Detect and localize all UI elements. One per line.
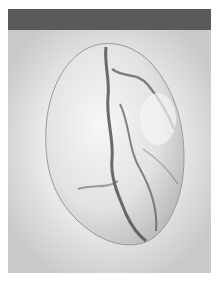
photo-frame [8,9,211,273]
stone-image [8,9,211,273]
